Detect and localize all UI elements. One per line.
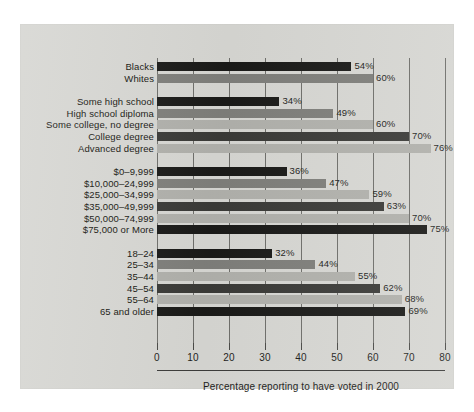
category-label: College degree (26, 131, 154, 142)
bar (157, 260, 315, 269)
plot-area: 01020304050607080 54%60%34%49%60%70%76%3… (157, 58, 445, 343)
bar (157, 284, 380, 293)
bar-row: 62% (157, 284, 445, 293)
category-label: 55–64 (26, 294, 154, 305)
category-label: $0–9,999 (26, 166, 154, 177)
bar (157, 272, 355, 281)
x-tick-mark (157, 343, 158, 350)
category-label: Whites (26, 73, 154, 84)
bar-row: 55% (157, 272, 445, 281)
bar (157, 225, 427, 234)
bar-row: 54% (157, 62, 445, 71)
category-label: 45–54 (26, 283, 154, 294)
x-tick-label: 40 (281, 352, 321, 363)
bar-row: 59% (157, 190, 445, 199)
bar-row: 70% (157, 132, 445, 141)
bar-value-label: 59% (372, 188, 391, 199)
bar-value-label: 76% (434, 142, 453, 153)
category-label: High school diploma (26, 108, 154, 119)
bar-value-label: 68% (405, 293, 424, 304)
chart-caption: Percentage reporting to have voted in 20… (157, 381, 445, 392)
category-label: Blacks (26, 61, 154, 72)
category-label: Some high school (26, 96, 154, 107)
bar (157, 97, 279, 106)
x-tick-mark (229, 343, 230, 350)
bar (157, 132, 409, 141)
bar (157, 307, 405, 316)
x-tick-label: 50 (317, 352, 357, 363)
axis-rule (157, 370, 445, 371)
bar-value-label: 75% (430, 223, 449, 234)
bar (157, 109, 333, 118)
bar (157, 190, 369, 199)
category-label: Advanced degree (26, 143, 154, 154)
x-tick-label: 80 (425, 352, 465, 363)
bar-row: 60% (157, 120, 445, 129)
x-tick-mark (301, 343, 302, 350)
bar (157, 167, 287, 176)
bar-row: 44% (157, 260, 445, 269)
bar-value-label: 36% (290, 165, 309, 176)
bar (157, 144, 431, 153)
x-tick-mark (445, 343, 446, 350)
bar-row: 49% (157, 109, 445, 118)
bar-value-label: 60% (376, 118, 395, 129)
bar-row: 70% (157, 214, 445, 223)
category-label: $35,000–49,999 (26, 201, 154, 212)
x-tick-label: 70 (389, 352, 429, 363)
category-label: $10,000–24,999 (26, 178, 154, 189)
category-label: 65 and older (26, 306, 154, 317)
x-tick-label: 10 (173, 352, 213, 363)
category-label: 18–24 (26, 248, 154, 259)
bar-value-label: 44% (318, 258, 337, 269)
bar-row: 75% (157, 225, 445, 234)
bar-row: 36% (157, 167, 445, 176)
bar-value-label: 62% (383, 282, 402, 293)
bar (157, 214, 409, 223)
x-tick-label: 60 (353, 352, 393, 363)
x-tick-mark (265, 343, 266, 350)
chart-panel: 01020304050607080 54%60%34%49%60%70%76%3… (20, 24, 454, 389)
x-tick-label: 20 (209, 352, 249, 363)
bar-value-label: 55% (358, 270, 377, 281)
bar (157, 179, 326, 188)
category-label: 25–34 (26, 259, 154, 270)
bar (157, 74, 373, 83)
x-tick-label: 30 (245, 352, 285, 363)
bar-value-label: 70% (412, 212, 431, 223)
category-label: $75,000 or More (26, 224, 154, 235)
bar-value-label: 47% (329, 177, 348, 188)
category-label: 35–44 (26, 271, 154, 282)
category-label: $50,000–74,999 (26, 213, 154, 224)
bar-value-label: 49% (336, 107, 355, 118)
bar-row: 69% (157, 307, 445, 316)
x-tick-label: 0 (137, 352, 177, 363)
bar (157, 62, 351, 71)
bar-value-label: 70% (412, 130, 431, 141)
bar-value-label: 63% (387, 200, 406, 211)
bar-row: 76% (157, 144, 445, 153)
bar-value-label: 54% (354, 60, 373, 71)
gridline (445, 58, 446, 343)
bar-row: 47% (157, 179, 445, 188)
x-tick-mark (193, 343, 194, 350)
bar-value-label: 32% (275, 247, 294, 258)
bar-value-label: 60% (376, 72, 395, 83)
bar-row: 32% (157, 249, 445, 258)
chart-figure: 01020304050607080 54%60%34%49%60%70%76%3… (0, 0, 474, 412)
bar-row: 68% (157, 295, 445, 304)
bar (157, 120, 373, 129)
bar-value-label: 34% (282, 95, 301, 106)
category-label: Some college, no degree (26, 119, 154, 130)
bar-row: 34% (157, 97, 445, 106)
x-tick-mark (337, 343, 338, 350)
category-labels: BlacksWhitesSome high schoolHigh school … (23, 58, 154, 343)
bar-value-label: 69% (408, 305, 427, 316)
bar-row: 60% (157, 74, 445, 83)
category-label: $25,000–34,999 (26, 189, 154, 200)
x-tick-mark (409, 343, 410, 350)
bar (157, 202, 384, 211)
x-tick-mark (373, 343, 374, 350)
bar (157, 249, 272, 258)
bar (157, 295, 402, 304)
